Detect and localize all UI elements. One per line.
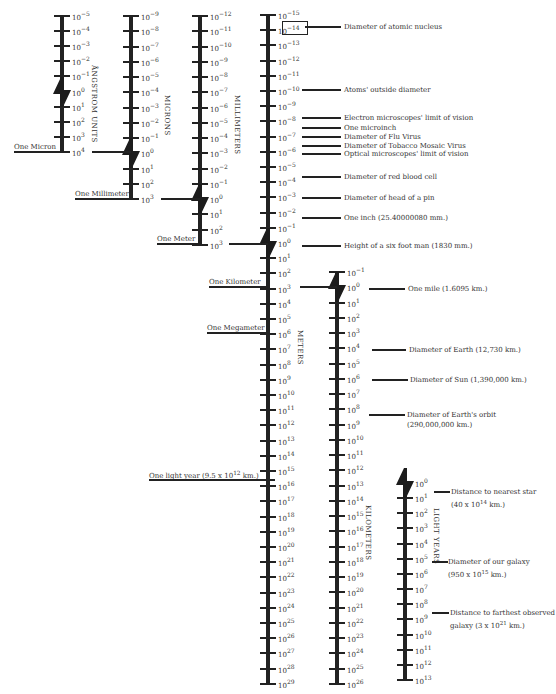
- axis-break-icon: [51, 77, 73, 107]
- tick-angstrom--5: [54, 15, 70, 17]
- tick-microns--6: [123, 61, 139, 63]
- tick-label-meters-15: 1015: [278, 467, 295, 477]
- annotation-label: Diameter of Sun (1,390,000 km.): [410, 375, 527, 385]
- tick-meters-24: [260, 607, 276, 609]
- tick-millimeters-2: [192, 229, 208, 231]
- tick-meters-20: [260, 546, 276, 548]
- tick-kilometers-8: [329, 408, 345, 410]
- tick-millimeters--11: [192, 30, 208, 32]
- tick-meters-10: [260, 394, 276, 396]
- tick-label-millimeters--11: 10−11: [210, 27, 232, 37]
- annotation-label: One inch (25.40000080 mm.): [344, 213, 448, 223]
- reference-label: One light year (9.5 x 1012 km.): [149, 470, 259, 480]
- tick-light_years-5: [397, 558, 413, 560]
- annotation-line: [302, 117, 341, 119]
- reference-line: [209, 286, 268, 288]
- annotation-line: [302, 136, 341, 138]
- tick-label-meters-1: 101: [278, 254, 291, 264]
- unit-label-microns: MICRONS: [163, 95, 171, 136]
- tick-label-light_years-3: 103: [415, 524, 428, 534]
- tick-label-meters-10: 1010: [278, 391, 295, 401]
- tick-kilometers-21: [329, 607, 345, 609]
- annotation-label: Diameter of red blood cell: [344, 172, 437, 182]
- tick-millimeters--5: [192, 122, 208, 124]
- tick-light_years-10: [397, 634, 413, 636]
- tick-label-microns-1: 101: [141, 165, 154, 175]
- tick-kilometers-9: [329, 424, 345, 426]
- tick-label-microns-0: 100: [141, 149, 154, 159]
- tick-label-meters--7: 10−7: [278, 133, 296, 143]
- tick-millimeters--9: [192, 61, 208, 63]
- tick-label-meters--3: 10−3: [278, 193, 296, 203]
- tick-meters-23: [260, 592, 276, 594]
- tick-label-millimeters-1: 101: [210, 210, 223, 220]
- annotation-line: [302, 127, 341, 129]
- tick-label-meters--12: 10−12: [278, 57, 300, 67]
- tick-label-angstrom-4: 104: [72, 148, 85, 158]
- tick-millimeters--10: [192, 46, 208, 48]
- connector-line: [92, 151, 131, 153]
- unit-label-millimeters: MILLIMETERS: [233, 95, 241, 155]
- tick-meters-22: [260, 576, 276, 578]
- tick-meters-18: [260, 516, 276, 518]
- tick-label-kilometers-20: 1020: [347, 588, 364, 598]
- tick-microns--9: [123, 15, 139, 17]
- annotation-line: [305, 26, 341, 28]
- tick-label-microns--3: 10−3: [141, 104, 159, 114]
- tick-kilometers-15: [329, 515, 345, 517]
- tick-label-microns--2: 10−2: [141, 119, 159, 129]
- tick-meters-16: [260, 485, 276, 487]
- tick-microns--4: [123, 91, 139, 93]
- tick-label-light_years-7: 107: [415, 585, 428, 595]
- tick-light_years-4: [397, 543, 413, 545]
- tick-kilometers-25: [329, 668, 345, 670]
- annotation-line: [302, 245, 341, 247]
- tick-label-microns-2: 102: [141, 180, 154, 190]
- tick-label-light_years-0: 100: [415, 479, 428, 489]
- tick-label-meters-29: 1029: [278, 680, 295, 690]
- annotation-label: Distance to farthest observedgalaxy (3 x…: [450, 608, 555, 631]
- tick-label-millimeters--1: 10−1: [210, 180, 228, 190]
- tick-label-microns--5: 10−5: [141, 73, 159, 83]
- tick-meters-27: [260, 652, 276, 654]
- tick-microns--5: [123, 76, 139, 78]
- tick-label-millimeters-2: 102: [210, 226, 223, 236]
- tick-label-light_years-2: 102: [415, 509, 428, 519]
- tick-millimeters--2: [192, 168, 208, 170]
- tick-label-meters--15: 10−15: [278, 11, 300, 21]
- reference-label: One Meter: [157, 235, 195, 243]
- tick-angstrom-3: [54, 136, 70, 138]
- tick-label-meters-23: 1023: [278, 589, 295, 599]
- annotation-label: Diameter of our galaxy(950 x 1015 km.): [448, 557, 530, 580]
- annotation-line: [434, 491, 450, 493]
- tick-label-kilometers-21: 1021: [347, 604, 364, 614]
- tick-label-meters-12: 1012: [278, 421, 295, 431]
- nucleus-highlight-box: [282, 21, 308, 35]
- tick-meters-7: [260, 348, 276, 350]
- tick-label-meters--11: 10−11: [278, 72, 300, 82]
- tick-kilometers-7: [329, 393, 345, 395]
- tick-label-kilometers-6: 106: [347, 375, 360, 385]
- tick-label-millimeters--2: 10−2: [210, 165, 228, 175]
- reference-line: [75, 198, 131, 200]
- reference-line: [207, 332, 268, 334]
- tick-kilometers-12: [329, 469, 345, 471]
- axis-break-icon: [120, 138, 142, 168]
- tick-label-meters-24: 1024: [278, 604, 295, 614]
- tick-label-microns--9: 10−9: [141, 12, 159, 22]
- tick-angstrom--2: [54, 60, 70, 62]
- unit-label-light_years: LIGHT YEARS: [432, 508, 440, 564]
- annotation-label: Optical microscopes' limit of vision: [344, 149, 468, 159]
- annotation-label: Diameter of atomic nucleus: [344, 22, 442, 32]
- tick-label-kilometers-1: 101: [347, 299, 360, 309]
- tick-light_years-2: [397, 512, 413, 514]
- tick-meters-26: [260, 637, 276, 639]
- tick-label-meters-26: 1026: [278, 634, 295, 644]
- tick-kilometers-22: [329, 622, 345, 624]
- reference-line: [14, 151, 62, 153]
- tick-kilometers-14: [329, 500, 345, 502]
- tick-meters-12: [260, 424, 276, 426]
- tick-label-light_years-12: 1012: [415, 661, 432, 671]
- unit-label-kilometers: KILOMETERS: [364, 505, 372, 561]
- tick-label-meters--4: 10−4: [278, 178, 296, 188]
